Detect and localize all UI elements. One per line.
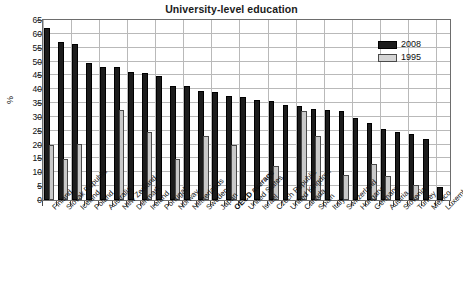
x-axis-tick-label: United Kingdom: [289, 206, 294, 211]
x-axis-tick-label: Slovak Republic: [65, 206, 70, 211]
bar-2008[interactable]: [325, 110, 331, 200]
x-axis-tick-label: Israel: [261, 206, 266, 211]
x-axis-tick-label: Sweden: [205, 206, 210, 211]
bar-group[interactable]: [141, 20, 155, 200]
legend-label-1995: 1995: [401, 53, 421, 62]
bar-group[interactable]: [338, 20, 352, 200]
bar-group[interactable]: [225, 20, 239, 200]
bar-2008[interactable]: [353, 118, 359, 200]
x-axis-tick-label: Canada: [303, 206, 308, 211]
x-axis-tick-label: Poland: [93, 206, 98, 211]
x-axis-tick-label: New Zealand: [121, 206, 126, 211]
x-axis-tick-label: Germany: [373, 206, 378, 211]
bar-group[interactable]: [211, 20, 225, 200]
legend-label-2008: 2008: [401, 40, 421, 49]
bar-group[interactable]: [113, 20, 127, 200]
x-axis-tick-label: Japan: [219, 206, 224, 211]
x-axis-tick-label: Denmark: [135, 206, 140, 211]
x-axis-tick-label: Spain: [317, 206, 322, 211]
x-axis-tick-label: Australia: [107, 206, 112, 211]
bar-2008[interactable]: [128, 72, 134, 200]
bar-group[interactable]: [352, 20, 366, 200]
bar-group[interactable]: [71, 20, 85, 200]
bar-1995[interactable]: [343, 175, 349, 200]
x-axis-tick-label: Czech Republic: [275, 206, 280, 211]
legend-entry-1995: 1995: [378, 52, 421, 63]
x-axis-tick-label: Austria: [388, 206, 393, 211]
x-axis-tick-label: Mexico: [430, 206, 435, 211]
bar-group[interactable]: [282, 20, 296, 200]
y-axis-ticks: 05101520253035404550556065: [0, 19, 42, 201]
chart-container: University-level education % 05101520253…: [0, 0, 463, 290]
x-axis-tick-label: Netherlands: [191, 206, 196, 211]
x-axis-tick-label: Slovenia: [402, 206, 407, 211]
bar-1995[interactable]: [49, 145, 55, 200]
x-axis-tick-label: Italy: [331, 206, 336, 211]
x-axis-tick-label: Portugal: [163, 206, 168, 211]
x-axis-tick-label: Iceland: [79, 206, 84, 211]
x-axis-tick-label: Finland: [51, 206, 56, 211]
bar-group[interactable]: [155, 20, 169, 200]
bar-2008[interactable]: [156, 76, 162, 200]
bar-group[interactable]: [127, 20, 141, 200]
chart-legend: 2008 1995: [378, 39, 446, 65]
bar-group[interactable]: [43, 20, 57, 200]
bar-group[interactable]: [183, 20, 197, 200]
x-axis-tick-label: Switzerland: [345, 206, 350, 211]
x-axis-tick-label: Norway: [177, 206, 182, 211]
chart-title: University-level education: [0, 3, 463, 15]
x-axis-labels: FinlandSlovak RepublicIcelandPolandAustr…: [42, 206, 463, 290]
bar-group[interactable]: [239, 20, 253, 200]
legend-entry-2008: 2008: [378, 39, 421, 50]
x-axis-tick-label: Hungary: [359, 206, 364, 211]
bar-2008[interactable]: [184, 86, 190, 200]
bar-group[interactable]: [57, 20, 71, 200]
x-axis-tick-label: United States: [247, 206, 252, 211]
legend-swatch-2008-icon: [378, 41, 397, 49]
bar-group[interactable]: [169, 20, 183, 200]
x-axis-tick-label: Turkey: [416, 206, 421, 211]
bar-2008[interactable]: [283, 105, 289, 200]
x-axis-tick-label: Ireland: [149, 206, 154, 211]
legend-swatch-1995-icon: [378, 54, 397, 62]
x-axis-tick-label: Luxembourg: [444, 206, 449, 211]
bar-2008[interactable]: [240, 97, 246, 200]
x-axis-tick-label: OECD average: [233, 206, 238, 211]
bar-group[interactable]: [197, 20, 211, 200]
